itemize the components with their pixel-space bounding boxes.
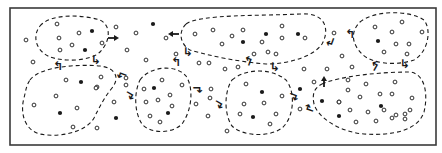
open-particle: [223, 67, 227, 71]
open-particle: [266, 50, 270, 54]
open-particle: [260, 40, 264, 44]
open-particle: [312, 80, 316, 84]
open-particle: [160, 78, 164, 82]
filled-particle: [264, 32, 268, 36]
open-particle: [348, 108, 352, 112]
cluster-outline-c3: [353, 13, 428, 64]
open-particle: [280, 24, 284, 28]
filled-particle: [151, 22, 155, 26]
exchange-arrow-icon: ↰: [53, 59, 63, 73]
filled-particle: [114, 116, 118, 120]
exchange-arrows: ↰↳↰↲↰↳↲↲↰↳↲↱↲↰↰↳: [53, 27, 410, 115]
cluster-diagram: ↰↳↰↲↰↳↲↲↰↳↲↱↲↰↰↳: [0, 0, 442, 153]
open-particle: [390, 30, 394, 34]
open-particle: [390, 92, 394, 96]
cluster-outlines: [23, 13, 429, 135]
open-particle: [394, 113, 398, 117]
open-particle: [156, 98, 160, 102]
open-particle: [382, 50, 386, 54]
open-particle: [209, 87, 213, 91]
open-particle: [71, 125, 75, 129]
filled-particle: [83, 48, 87, 52]
open-particle: [400, 20, 404, 24]
open-particle: [280, 36, 284, 40]
open-particle: [170, 104, 174, 108]
open-particle: [99, 75, 103, 79]
open-particle: [197, 61, 201, 65]
open-particle: [144, 100, 148, 104]
open-particle: [144, 58, 148, 62]
filled-particle: [296, 32, 300, 36]
cluster-outline-c6: [226, 71, 292, 135]
open-particle: [230, 34, 234, 38]
open-particle: [242, 102, 246, 106]
open-particle: [211, 28, 215, 32]
open-particle: [346, 78, 350, 82]
arrow-left-icon: [168, 31, 179, 37]
open-particle: [405, 52, 409, 56]
open-particle: [125, 48, 129, 52]
exchange-arrow-icon: ↲: [210, 97, 227, 113]
arrow-right-icon: [108, 35, 119, 41]
open-particle: [168, 93, 172, 97]
open-particle: [236, 65, 240, 69]
filled-particle: [260, 90, 264, 94]
open-particle: [366, 110, 370, 114]
open-particle: [394, 42, 398, 46]
open-particle: [194, 102, 198, 106]
open-particle: [408, 108, 412, 112]
open-particle: [241, 28, 245, 32]
exchange-arrow-icon: ↳: [400, 57, 410, 71]
exchange-arrow-icon: ↲: [286, 90, 303, 104]
open-particle: [100, 41, 104, 45]
cluster-outline-c7: [313, 72, 425, 134]
open-particle: [220, 42, 224, 46]
open-particle: [54, 94, 58, 98]
open-particle: [225, 129, 229, 133]
filled-particle: [166, 111, 170, 115]
open-particle: [64, 78, 68, 82]
open-particle: [58, 48, 62, 52]
open-particle: [374, 119, 378, 123]
open-particle: [337, 100, 341, 104]
open-particle: [112, 100, 116, 104]
open-particle: [55, 22, 59, 26]
open-particle: [70, 43, 74, 47]
open-particle: [340, 54, 344, 58]
open-particle: [164, 36, 168, 40]
exchange-arrow-icon: ↰: [345, 27, 355, 41]
open-particle: [24, 38, 28, 42]
open-particle: [373, 25, 377, 29]
open-particle: [208, 96, 212, 100]
filled-particle: [152, 86, 156, 90]
diagram-frame: [10, 8, 436, 145]
filled-particle: [320, 99, 324, 103]
open-particle: [95, 126, 99, 130]
filled-particle: [241, 40, 245, 44]
open-particle: [75, 106, 79, 110]
exchange-arrow-icon: ↲: [191, 85, 205, 95]
open-particle: [280, 94, 284, 98]
particles: [24, 20, 424, 133]
filled-particle: [79, 80, 83, 84]
open-particle: [207, 61, 211, 65]
open-particle: [57, 36, 61, 40]
open-particle: [94, 86, 98, 90]
open-particle: [193, 32, 197, 36]
open-particle: [274, 52, 278, 56]
open-particle: [268, 122, 272, 126]
open-particle: [403, 112, 407, 116]
open-particle: [354, 120, 358, 124]
open-particle: [332, 31, 336, 35]
exchange-arrow-icon: ↰: [241, 53, 255, 70]
open-particle: [244, 82, 248, 86]
open-particle: [358, 95, 362, 99]
open-particle: [142, 87, 146, 91]
open-particle: [325, 67, 329, 71]
exchange-arrow-icon: ↰: [171, 55, 181, 69]
open-particle: [114, 25, 118, 29]
open-particle: [393, 80, 397, 84]
exchange-arrow-icon: ↳: [183, 45, 193, 59]
open-particle: [407, 42, 411, 46]
open-particle: [350, 65, 354, 69]
